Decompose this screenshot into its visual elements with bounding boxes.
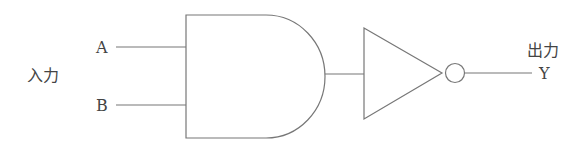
logic-circuit — [0, 0, 584, 147]
not-gate-bubble — [446, 64, 465, 83]
inputs-group-label: 入力 — [27, 68, 59, 84]
input-a-label: A — [96, 40, 108, 56]
and-gate — [186, 15, 325, 138]
output-y-label: Y — [539, 66, 550, 82]
output-group-label: 出力 — [527, 43, 559, 59]
input-b-label: B — [96, 98, 108, 114]
not-gate-triangle — [364, 28, 442, 119]
